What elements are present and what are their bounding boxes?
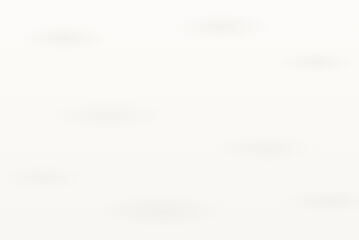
x-tick-label: 2002 bbox=[119, 200, 131, 206]
data-point-marker bbox=[311, 65, 314, 68]
x-axis-title: Year bbox=[0, 218, 359, 227]
data-point-marker bbox=[104, 187, 107, 190]
data-point-marker bbox=[64, 188, 67, 191]
x-tick-label: 2010 bbox=[198, 200, 210, 206]
data-point-marker bbox=[133, 184, 136, 187]
x-tick-label: 2006 bbox=[158, 200, 170, 206]
data-point-marker bbox=[291, 86, 294, 89]
y-tick-label: 12.5k bbox=[18, 77, 56, 83]
data-point-marker bbox=[232, 130, 235, 133]
x-tick-label: 2014 bbox=[237, 200, 249, 206]
x-tick-label: 2000 bbox=[99, 200, 111, 206]
data-point-marker bbox=[183, 162, 186, 165]
data-point-marker bbox=[84, 187, 87, 190]
data-point-marker bbox=[143, 181, 146, 184]
data-point-marker bbox=[74, 188, 77, 191]
data-point-marker bbox=[212, 139, 215, 142]
x-tick-label: 2022 bbox=[316, 200, 328, 206]
x-tick-label: 2024 bbox=[336, 200, 348, 206]
data-point-marker bbox=[252, 118, 255, 121]
data-point-marker bbox=[163, 173, 166, 176]
x-tick-label: 2018 bbox=[277, 200, 289, 206]
chart-title: Documents by year bbox=[10, 6, 102, 18]
x-tick-label: 1996 bbox=[60, 200, 72, 206]
data-point-marker bbox=[222, 138, 225, 141]
data-point-marker bbox=[94, 187, 97, 190]
data-series-line bbox=[66, 54, 342, 189]
x-tick-label: 2012 bbox=[217, 200, 229, 206]
data-point-marker bbox=[341, 69, 344, 72]
data-point-marker bbox=[281, 98, 284, 101]
data-point-marker bbox=[114, 186, 117, 189]
data-point-marker bbox=[301, 74, 304, 77]
data-point-marker bbox=[331, 53, 334, 56]
y-tick-label: 17.5k bbox=[18, 30, 56, 36]
data-point-marker bbox=[203, 148, 206, 151]
data-point-marker bbox=[272, 105, 275, 108]
data-point-marker bbox=[242, 124, 245, 127]
data-point-marker bbox=[153, 178, 156, 181]
data-point-marker bbox=[193, 155, 196, 158]
y-tick-label: 2.5k bbox=[18, 170, 56, 176]
data-point-marker bbox=[321, 58, 324, 61]
x-tick-label: 1998 bbox=[79, 200, 91, 206]
y-tick-label: 5k bbox=[18, 146, 56, 152]
data-point-marker bbox=[262, 111, 265, 114]
x-tick-label: 2004 bbox=[139, 200, 151, 206]
y-tick-label: 0 bbox=[18, 193, 56, 199]
line-chart-plot: 02.5k5k7.5k10k12.5k15k17.5k1996199820002… bbox=[0, 0, 359, 240]
y-tick-label: 15k bbox=[18, 53, 56, 59]
x-tick-label: 2016 bbox=[257, 200, 269, 206]
data-point-marker bbox=[124, 185, 127, 188]
data-point-marker bbox=[173, 167, 176, 170]
x-tick-label: 2008 bbox=[178, 200, 190, 206]
y-axis-title: Documents bbox=[16, 99, 25, 137]
x-tick-label: 2020 bbox=[296, 200, 308, 206]
